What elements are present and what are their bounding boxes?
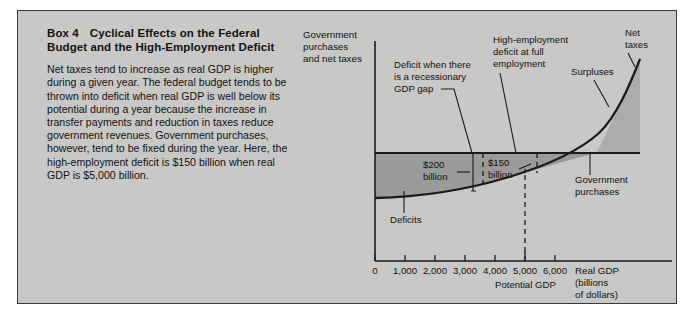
annotation-net-taxes-line2: taxes bbox=[625, 39, 648, 50]
chart-area: 0 1,000 2,000 3,000 4,000 5,000 6,000 Po… bbox=[294, 11, 677, 304]
y-axis-title-line1: Government bbox=[303, 29, 357, 40]
tick-label-1000: 1,000 bbox=[393, 265, 417, 276]
tick-label-0: 0 bbox=[372, 265, 377, 276]
annotation-government-purchases-line1: Government bbox=[575, 174, 628, 185]
y-axis-title-line2: purchases bbox=[303, 41, 348, 52]
tick-label-3000: 3,000 bbox=[453, 265, 477, 276]
annotation-high-employment-line1: High-employment bbox=[493, 34, 569, 45]
tick-label-5000: 5,000 bbox=[513, 265, 537, 276]
leader-line-net-taxes bbox=[628, 53, 635, 67]
figure-panel: Box 4Cyclical Effects on the Federal Bud… bbox=[17, 10, 677, 304]
tick-label-6000: 6,000 bbox=[543, 265, 567, 276]
annotation-net-taxes-line1: Net bbox=[625, 27, 640, 38]
box-title-text: Cyclical Effects on the Federal Budget a… bbox=[47, 27, 274, 53]
potential-gdp-label: Potential GDP bbox=[495, 279, 556, 290]
x-axis-title-line3: of dollars) bbox=[575, 289, 618, 300]
leader-line-surpluses bbox=[594, 80, 609, 107]
tick-label-2000: 2,000 bbox=[423, 265, 447, 276]
leader-line-high-employment bbox=[500, 73, 516, 153]
box-text-column: Box 4Cyclical Effects on the Federal Bud… bbox=[47, 27, 292, 182]
tick-label-4000: 4,000 bbox=[483, 265, 507, 276]
annotation-gap-200-line1: $200 bbox=[423, 159, 444, 170]
annotation-recessionary-gap-line2: is a recessionary bbox=[394, 71, 466, 82]
annotation-high-employment-line2: deficit at full bbox=[493, 46, 544, 57]
annotation-surpluses: Surpluses bbox=[571, 66, 614, 77]
x-axis-title-line1: Real GDP bbox=[575, 265, 620, 276]
leader-line-recessionary-gap bbox=[441, 89, 472, 153]
annotation-government-purchases-line2: purchases bbox=[575, 186, 619, 197]
annotation-recessionary-gap-line1: Deficit when there bbox=[394, 59, 471, 70]
annotation-high-employment-line3: employment bbox=[493, 58, 546, 69]
box-number: Box 4 bbox=[47, 27, 79, 39]
box-body-text: Net taxes tend to increase as real GDP i… bbox=[47, 63, 292, 182]
annotation-gap-150-line1: $150 bbox=[488, 157, 509, 168]
box-title: Box 4Cyclical Effects on the Federal Bud… bbox=[47, 27, 292, 54]
annotation-gap-150-line2: billion bbox=[488, 169, 513, 180]
annotation-gap-200-line2: billion bbox=[423, 171, 448, 182]
annotation-recessionary-gap-line3: GDP gap bbox=[394, 83, 433, 94]
y-axis-title-line3: and net taxes bbox=[303, 53, 362, 64]
x-axis-title-line2: (billions bbox=[575, 277, 608, 288]
annotation-deficits: Deficits bbox=[390, 214, 422, 225]
